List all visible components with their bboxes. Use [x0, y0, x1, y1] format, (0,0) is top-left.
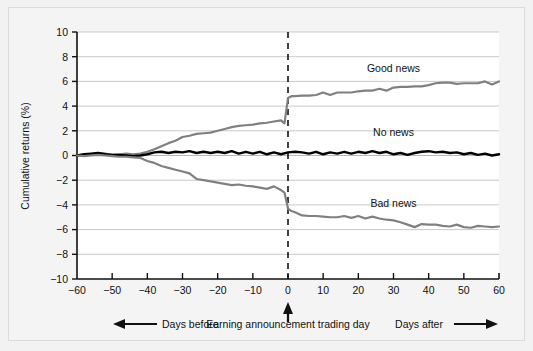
y-tick-label: 8 [62, 51, 68, 63]
right-arrow-head-icon [486, 319, 498, 329]
y-axis-title: Cumulative returns (%) [19, 102, 31, 209]
cumulative-returns-chart: −10−8−6−4−20246810 −60−50−40−30−20−10010… [9, 8, 524, 340]
days-after-annotation: Days after [395, 318, 498, 330]
y-tick-label: −4 [56, 199, 68, 211]
series-label-bad-news: Bad news [370, 197, 416, 209]
y-tick-label: 4 [62, 100, 68, 112]
up-arrow-head-icon [283, 302, 293, 314]
y-tick-label: 0 [62, 149, 68, 161]
y-tick-label: 6 [62, 75, 68, 87]
figure-panel: −10−8−6−4−20246810 −60−50−40−30−20−10010… [8, 7, 525, 341]
series-label-good-news: Good news [367, 62, 420, 74]
event-axis-title: Earning announcement trading day [206, 318, 370, 330]
x-tick-label: 10 [317, 284, 329, 296]
x-tick-label: −10 [244, 284, 262, 296]
x-tick-label: −40 [138, 284, 156, 296]
left-arrow-head-icon [113, 319, 125, 329]
event-axis-annotation: Earning announcement trading day [206, 302, 370, 330]
x-tick-label: 30 [388, 284, 400, 296]
x-tick-label: 40 [423, 284, 435, 296]
y-tick-label: 2 [62, 125, 68, 137]
x-tick-label: −30 [174, 284, 192, 296]
y-tick-label: −8 [56, 248, 68, 260]
days-before-annotation: Days before [113, 318, 219, 330]
x-tick-label: −50 [103, 284, 121, 296]
x-tick-label: 20 [352, 284, 364, 296]
x-tick-label: 60 [493, 284, 505, 296]
y-tick-label: −6 [56, 223, 68, 235]
y-tick-label: −10 [50, 273, 68, 285]
figure-container: −10−8−6−4−20246810 −60−50−40−30−20−10010… [0, 0, 533, 351]
y-tick-label: −2 [56, 174, 68, 186]
x-tick-label: −20 [209, 284, 227, 296]
series-label-no-news: No news [373, 126, 414, 138]
days-after-label: Days after [395, 318, 443, 330]
y-tick-label: 10 [56, 26, 68, 38]
x-tick-label: 0 [285, 284, 291, 296]
x-tick-label: −60 [68, 284, 86, 296]
y-axis-ticks: −10−8−6−4−20246810 [50, 26, 77, 285]
x-tick-label: 50 [458, 284, 470, 296]
